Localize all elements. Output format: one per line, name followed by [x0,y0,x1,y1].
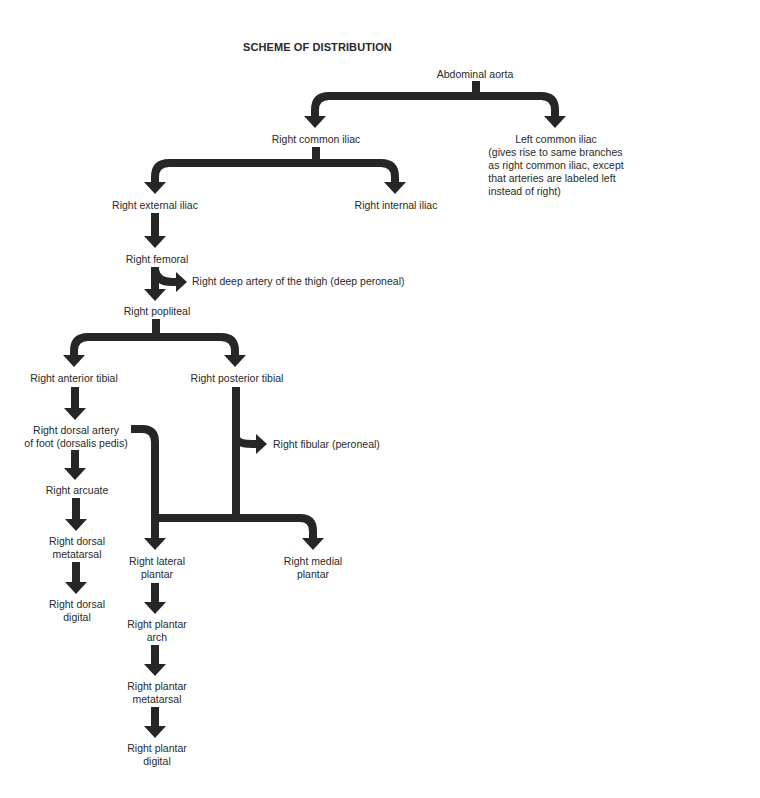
node-right-lateral-plantar: Right lateral plantar [129,555,185,581]
arrow-metatarsal-to-digital-arrowhead [65,582,87,594]
node-right-deep-artery-thigh: Right deep artery of the thigh (deep per… [192,275,404,288]
node-abdominal-aorta: Abdominal aorta [437,68,513,81]
arrow-common-iliac-split-left-arrowhead [144,182,166,194]
node-right-plantar-digital: Right plantar digital [127,742,187,768]
node-right-dorsal-digital-line-1: Right dorsal [49,598,105,611]
arrow-aorta-split-right-arrowhead [544,116,566,128]
node-right-lateral-plantar-line-2: plantar [129,568,185,581]
node-right-internal-iliac: Right internal iliac [355,199,438,212]
node-right-dorsal-metatarsal: Right dorsal metatarsal [49,535,105,561]
arrow-fibular-arrowhead [256,434,267,454]
node-left-common-iliac-line-3: as right common iliac, except [488,159,623,172]
node-right-plantar-digital-line-1: Right plantar [127,742,187,755]
arrow-plantar-bar [157,518,313,538]
arrow-deep-thigh-shaft [155,270,176,282]
arrow-arch-to-metatarsal-arrowhead [144,664,166,676]
node-right-dorsal-artery-foot: Right dorsal artery of foot (dorsalis pe… [24,424,127,450]
arrow-aorta-split-bar [315,96,555,116]
arrow-common-iliac-split-right-arrowhead [384,182,406,194]
node-right-posterior-tibial: Right posterior tibial [191,372,284,385]
arrow-dorsalis-to-lateral-plantar-arrowhead [144,538,166,550]
arrow-metatarsal-to-plantar-digital-arrowhead [144,726,166,738]
arrow-femoral-to-popliteal-arrowhead [144,289,166,301]
node-right-plantar-metatarsal: Right plantar metatarsal [127,680,187,706]
arrow-popliteal-split-bar [74,337,235,355]
node-right-arcuate: Right arcuate [46,484,108,497]
node-right-anterior-tibial: Right anterior tibial [30,372,118,385]
node-right-medial-plantar-line-2: plantar [284,568,342,581]
node-right-common-iliac: Right common iliac [272,133,361,146]
node-left-common-iliac: Left common iliac (gives rise to same br… [488,133,623,198]
arrow-deep-thigh-arrowhead [176,272,187,292]
arrow-popliteal-split-left-arrowhead [63,355,85,367]
arrow-dorsalis-to-arcuate-arrowhead [64,468,86,480]
arrow-arcuate-to-metatarsal-arrowhead [65,519,87,531]
node-left-common-iliac-line-4: that arteries are labeled left [488,172,623,185]
node-right-dorsal-metatarsal-line-1: Right dorsal [49,535,105,548]
node-right-plantar-metatarsal-line-2: metatarsal [127,693,187,706]
node-right-plantar-arch-line-2: arch [127,631,187,644]
node-right-dorsal-metatarsal-line-2: metatarsal [49,548,105,561]
node-right-plantar-digital-line-2: digital [127,755,187,768]
node-left-common-iliac-line-1: Left common iliac [488,133,623,146]
arrow-medial-plantar-arrowhead [302,538,324,550]
node-right-dorsal-digital-line-2: digital [49,611,105,624]
arrow-lateral-to-arch-arrowhead [144,602,166,614]
node-right-plantar-arch: Right plantar arch [127,618,187,644]
node-right-dorsal-artery-foot-line-1: Right dorsal artery [24,424,127,437]
node-right-external-iliac: Right external iliac [112,199,198,212]
arrow-external-to-femoral-arrowhead [144,236,166,248]
arrow-popliteal-split-right-arrowhead [224,355,246,367]
node-right-plantar-metatarsal-line-1: Right plantar [127,680,187,693]
node-right-plantar-arch-line-1: Right plantar [127,618,187,631]
node-right-femoral: Right femoral [126,253,188,266]
node-left-common-iliac-line-2: (gives rise to same branches [488,146,623,159]
node-right-popliteal: Right popliteal [124,305,191,318]
node-right-dorsal-artery-foot-line-2: of foot (dorsalis pedis) [24,437,127,450]
node-right-lateral-plantar-line-1: Right lateral [129,555,185,568]
arrow-aorta-split-left-arrowhead [304,116,326,128]
node-right-fibular: Right fibular (peroneal) [273,438,380,451]
node-left-common-iliac-line-5: instead of right) [488,185,623,198]
node-right-medial-plantar-line-1: Right medial [284,555,342,568]
node-right-medial-plantar: Right medial plantar [284,555,342,581]
arrow-layer [0,0,760,798]
arrow-fibular-shaft [236,438,256,444]
arrow-anterior-to-dorsalis-arrowhead [64,408,86,420]
arrow-common-iliac-split-bar [155,163,395,182]
node-right-dorsal-digital: Right dorsal digital [49,598,105,624]
